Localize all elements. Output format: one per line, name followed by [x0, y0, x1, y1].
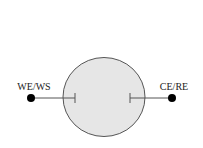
right-terminal-dot — [168, 94, 176, 102]
right-electrode-label: CE/RE — [160, 81, 188, 92]
left-terminal-dot — [27, 94, 35, 102]
cell-diagram: WE/WS CE/RE — [0, 0, 203, 148]
left-electrode-label: WE/WS — [17, 81, 50, 92]
